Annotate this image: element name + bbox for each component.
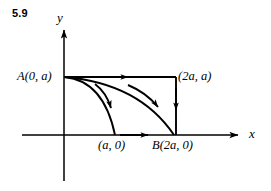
path-rectangular — [65, 77, 177, 135]
figure-container: 5.9 — [0, 0, 271, 191]
x-axis-label: x — [249, 127, 255, 140]
y-axis-label: y — [57, 11, 63, 24]
label-point-a-0: (a, 0) — [98, 139, 125, 152]
label-point-2a-a: (2a, a) — [178, 70, 211, 83]
label-point-b: B(2a, 0) — [152, 139, 193, 152]
figure-diagram — [0, 0, 271, 191]
label-point-a: A(0, a) — [17, 70, 52, 83]
arrow-curve-a0 — [95, 84, 111, 108]
axis-group — [22, 30, 238, 181]
path-curve-to-b — [65, 77, 175, 135]
